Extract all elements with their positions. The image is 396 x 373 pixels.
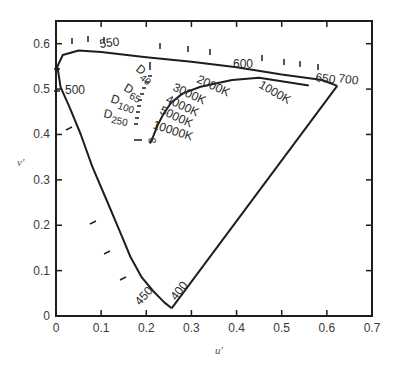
x-axis-title: u': [215, 344, 224, 356]
wavelength-label-550: 550: [98, 34, 120, 51]
plot-area: 00.10.20.30.40.50.60.7 00.10.20.30.40.50…: [33, 21, 380, 335]
x-tick-label: 0: [53, 321, 60, 335]
wavelength-label-400: 400: [167, 278, 191, 303]
y-tick-label: 0.2: [33, 218, 50, 232]
x-tick-label: 0.2: [138, 321, 155, 335]
wavelength-label-700: 700: [338, 71, 360, 88]
y-tick-label: 0.4: [33, 127, 50, 141]
x-tick-label: 0.6: [319, 321, 336, 335]
cct-label-infinity: ∞: [148, 133, 157, 147]
wavelength-label-500: 500: [65, 83, 85, 97]
x-tick-label: 0.1: [93, 321, 110, 335]
y-tick-label: 0.6: [33, 37, 50, 51]
y-tick-label: 0.1: [33, 264, 50, 278]
wavelength-label-600: 600: [233, 57, 253, 71]
x-axis-ticks: 00.10.20.30.40.50.60.7: [53, 21, 381, 335]
y-tick-label: 0.3: [33, 173, 50, 187]
y-tick-label: 0: [43, 309, 50, 323]
purple-line-line: [172, 86, 338, 308]
wavelength-label-450: 450: [132, 284, 156, 308]
wavelength-label-650: 650: [315, 70, 337, 87]
x-tick-label: 0.4: [228, 321, 245, 335]
x-tick-label: 0.5: [273, 321, 290, 335]
y-tick-label: 0.5: [33, 82, 50, 96]
x-tick-label: 0.7: [364, 321, 381, 335]
x-tick-label: 0.3: [183, 321, 200, 335]
locus-tick-marks: [54, 36, 318, 280]
y-axis-title: v': [17, 156, 25, 168]
chromaticity-diagram: 00.10.20.30.40.50.60.7 00.10.20.30.40.50…: [0, 0, 396, 373]
